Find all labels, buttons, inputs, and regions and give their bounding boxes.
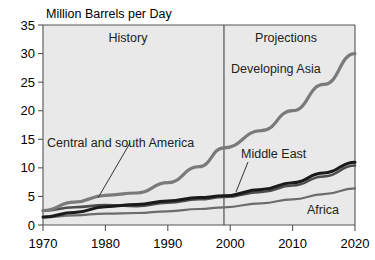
x-tick-label-1970: 1970: [29, 236, 58, 251]
y-axis-tick-labels: 05101520253035: [21, 18, 35, 233]
y-tick-label-35: 35: [21, 18, 35, 33]
series-label-africa: Africa: [307, 203, 339, 217]
series-label-central-south-america: Central and south America: [47, 136, 194, 150]
projections-label: Projections: [255, 31, 317, 45]
y-axis-ticks: [38, 25, 43, 225]
y-tick-label-10: 10: [21, 160, 35, 175]
y-tick-label-25: 25: [21, 75, 35, 90]
y-tick-label-20: 20: [21, 103, 35, 118]
series-label-developing-asia: Developing Asia: [231, 62, 321, 76]
y-tick-label-15: 15: [21, 132, 35, 147]
x-axis-ticks: [43, 225, 355, 231]
y-tick-label-30: 30: [21, 46, 35, 61]
history-label: History: [109, 31, 149, 45]
y-tick-label-5: 5: [28, 189, 35, 204]
x-tick-label-1990: 1990: [153, 236, 182, 251]
chart-title: Million Barrels per Day: [46, 7, 172, 21]
x-tick-label-2020: 2020: [341, 236, 370, 251]
x-tick-label-2010: 2010: [278, 236, 307, 251]
x-axis-tick-labels: 197019801990200020102020: [29, 236, 370, 251]
series-label-middle-east: Middle East: [241, 147, 307, 161]
plot-background: [43, 25, 355, 225]
chart-container: Million Barrels per Day History Projecti…: [0, 0, 375, 260]
x-tick-label-2000: 2000: [216, 236, 245, 251]
line-chart: Million Barrels per Day History Projecti…: [0, 0, 375, 260]
y-tick-label-0: 0: [28, 218, 35, 233]
x-tick-label-1980: 1980: [91, 236, 120, 251]
